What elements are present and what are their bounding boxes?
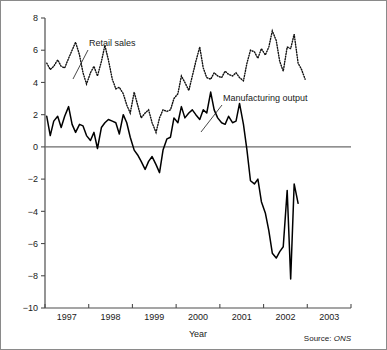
annotation-retail-sales-leader [73, 50, 88, 79]
x-tick-label: 2000 [188, 312, 208, 322]
y-tick-label: 0 [33, 142, 38, 152]
series-line-retail-sales [47, 31, 305, 133]
series-line-manufacturing-output [47, 92, 298, 279]
y-tick-label: −6 [28, 239, 38, 249]
x-tick-label: 1997 [57, 312, 77, 322]
series-layer [47, 31, 305, 279]
y-tick-label: −10 [23, 303, 38, 313]
axis-text-layer: 86420−2−4−6−8−10199719981999200020012002… [23, 13, 352, 343]
annotation-retail-sales-label: Retail sales [89, 38, 136, 48]
line-chart: Retail salesManufacturing output 86420−2… [1, 1, 387, 350]
source-prefix: Source: [304, 334, 334, 343]
y-tick-label: 8 [33, 13, 38, 23]
y-tick-label: −4 [28, 207, 38, 217]
y-tick-label: −2 [28, 174, 38, 184]
y-tick-label: 2 [33, 110, 38, 120]
y-tick-label: 4 [33, 78, 38, 88]
source-note: Source: ONS [304, 334, 352, 343]
y-tick-label: −8 [28, 271, 38, 281]
x-tick-label: 1998 [101, 312, 121, 322]
x-tick-label: 2001 [232, 312, 252, 322]
x-tick-label: 2003 [319, 312, 339, 322]
x-tick-label: 1999 [144, 312, 164, 322]
source-organisation: ONS [334, 334, 352, 343]
x-tick-label: 2002 [275, 312, 295, 322]
chart-figure: Retail salesManufacturing output 86420−2… [0, 0, 387, 350]
annotation-manufacturing-output-label: Manufacturing output [223, 93, 308, 103]
x-axis-title: Year [189, 329, 207, 339]
y-tick-label: 6 [33, 45, 38, 55]
